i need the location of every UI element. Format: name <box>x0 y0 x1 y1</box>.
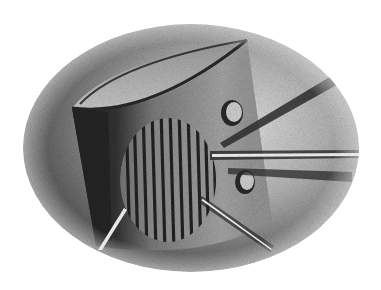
pencil-illustration <box>0 0 381 290</box>
illustration <box>0 0 381 290</box>
oval-vignette <box>23 24 360 272</box>
